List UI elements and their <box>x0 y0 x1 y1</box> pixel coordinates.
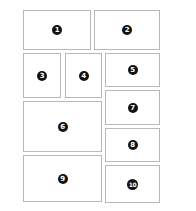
number-badge-3: 3 <box>37 71 47 81</box>
panel-9: 9 <box>23 155 102 202</box>
number-badge-9: 9 <box>58 174 68 184</box>
number-badge-8: 8 <box>128 140 138 150</box>
panel-5: 5 <box>105 53 160 87</box>
panel-7: 7 <box>105 90 160 125</box>
panel-2: 2 <box>94 10 160 50</box>
number-badge-5: 5 <box>128 65 138 75</box>
number-badge-6: 6 <box>58 122 68 132</box>
panel-8: 8 <box>105 128 160 162</box>
panel-10: 10 <box>105 165 160 203</box>
panel-3: 3 <box>23 53 61 98</box>
panel-1: 1 <box>23 10 91 50</box>
number-badge-2: 2 <box>122 25 132 35</box>
number-badge-4: 4 <box>79 71 89 81</box>
number-badge-1: 1 <box>52 25 62 35</box>
panel-4: 4 <box>65 53 102 98</box>
panel-6: 6 <box>23 101 102 152</box>
number-badge-10: 10 <box>127 179 138 190</box>
number-badge-7: 7 <box>128 103 138 113</box>
